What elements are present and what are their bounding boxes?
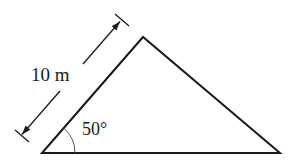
side-length-label: 10 m bbox=[31, 64, 70, 86]
dimension-line-lower bbox=[22, 91, 60, 135]
tick-mark-bottom bbox=[15, 130, 29, 142]
triangle bbox=[42, 37, 280, 153]
angle-arc bbox=[64, 128, 75, 153]
angle-label: 50° bbox=[82, 119, 107, 140]
dimension-line-upper bbox=[83, 22, 120, 65]
